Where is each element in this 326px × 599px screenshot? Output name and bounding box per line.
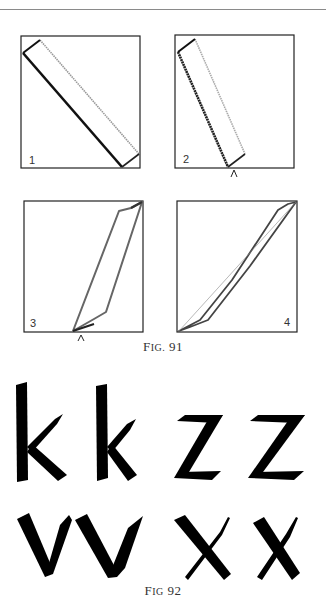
letter-z-1 (174, 415, 223, 480)
panel-3-label: 3 (30, 317, 36, 329)
figure-91-caption: FIG. 91 (0, 339, 326, 355)
panel-2-label: 2 (183, 153, 189, 165)
letter-k-1 (16, 382, 67, 482)
letter-v-2 (75, 514, 143, 578)
figure-92-letters (16, 382, 305, 580)
panel-2: 2 (175, 35, 294, 177)
panel-4: 4 (177, 201, 297, 332)
figure-91-diagram: 1 2 3 4 (0, 0, 326, 599)
caption-smallcaps: IG. (151, 342, 166, 353)
letter-v-1 (17, 513, 72, 577)
panel-3: 3 (24, 201, 143, 341)
panel-4-label: 4 (284, 316, 290, 328)
letter-z-2 (248, 415, 305, 480)
figure-92-caption: FIG 92 (0, 583, 326, 599)
caption-prefix: F (143, 339, 151, 354)
panel-1-label: 1 (29, 154, 35, 166)
caption-smallcaps: IG (152, 586, 164, 597)
letter-k-2 (96, 384, 137, 481)
letter-x-1 (174, 515, 231, 580)
panel-1: 1 (21, 36, 140, 168)
caption-number: 91 (165, 339, 183, 354)
letter-x-2 (253, 517, 300, 580)
caption-number: 92 (164, 583, 182, 598)
